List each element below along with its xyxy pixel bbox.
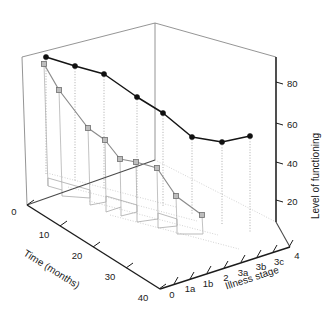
z-tick-mark — [276, 200, 283, 202]
data-point — [247, 133, 252, 138]
series-lower-trajectory — [42, 62, 205, 218]
data-point — [219, 139, 224, 144]
y-tick-label: 20 — [72, 250, 83, 261]
z-tick-label: 20 — [287, 196, 298, 207]
dropline — [105, 140, 106, 202]
x-tick-label: 1b — [203, 278, 214, 289]
data-point — [43, 54, 48, 59]
floor-grid-line — [47, 173, 176, 207]
data-point — [134, 94, 139, 99]
y-tick-mark — [126, 263, 133, 268]
chart-figure: 20 40 60 80 Level of functioning 0 10 20… — [0, 0, 333, 322]
dropline-group-gray — [44, 64, 203, 234]
data-point — [155, 166, 160, 171]
floor-step-outline — [106, 196, 137, 212]
x-tick-mark — [207, 266, 211, 273]
data-point — [174, 194, 179, 199]
y-tick-mark — [93, 242, 100, 247]
z-tick-label: 60 — [287, 119, 298, 130]
floor-left-edge — [27, 160, 155, 205]
z-axis-base-connector — [276, 222, 290, 247]
x-tick-label: 4 — [294, 250, 299, 261]
data-point — [189, 134, 194, 139]
data-point — [57, 88, 62, 93]
axis-lines — [27, 57, 290, 289]
floor-step-outline — [48, 186, 203, 234]
dropline — [59, 90, 62, 190]
floor-grid — [47, 160, 276, 249]
data-point — [134, 160, 139, 165]
z-tick-mark — [276, 123, 283, 125]
dropline — [88, 128, 90, 198]
data-point — [72, 63, 77, 68]
z-tick-mark — [276, 162, 283, 164]
series-line — [46, 57, 250, 142]
x-tick-mark — [289, 240, 293, 247]
box-left-edge — [22, 57, 27, 205]
x-tick-mark — [241, 255, 245, 262]
y-tick-label: 10 — [39, 229, 50, 240]
data-point — [86, 126, 91, 131]
y-tick-label: 40 — [138, 292, 149, 303]
y-tick-label: 30 — [105, 271, 116, 282]
x-tick-label: 0 — [169, 289, 174, 300]
floor-projection-polygon — [48, 178, 203, 234]
data-point — [160, 110, 165, 115]
z-axis-ticks: 20 40 60 80 — [276, 78, 298, 207]
plot-canvas: 20 40 60 80 Level of functioning 0 10 20… — [0, 0, 333, 322]
data-point — [118, 157, 123, 162]
dropline — [157, 168, 158, 219]
data-point — [101, 71, 106, 76]
box-top-ridge — [22, 23, 276, 57]
z-tick-label: 80 — [287, 78, 298, 89]
x-axis-title: Illness stage — [224, 264, 281, 292]
data-point — [103, 138, 108, 143]
x-tick-label: 1a — [185, 283, 196, 294]
y-tick-mark — [60, 221, 67, 226]
x-axis-ticks: 0 1a 1b 2 3a 3b 3c 4 — [169, 240, 299, 300]
floor-grid-line — [89, 201, 218, 235]
z-tick-mark — [276, 82, 283, 84]
data-point — [200, 213, 205, 218]
floor-grid-line — [110, 215, 239, 249]
dropline-group-dark — [46, 57, 250, 232]
y-tick-label: 0 — [11, 206, 16, 217]
z-tick-label: 40 — [287, 158, 298, 169]
data-point — [42, 62, 47, 67]
z-axis-title: Level of functioning — [310, 133, 321, 219]
